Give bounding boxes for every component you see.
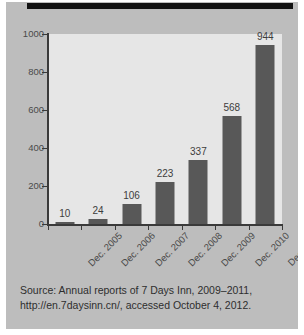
x-axis-category-label: Dec. 2007 bbox=[152, 230, 190, 268]
top-rule-divider bbox=[27, 3, 293, 9]
bar-slot: 568 bbox=[215, 34, 248, 224]
bar-slot: 10 bbox=[48, 34, 81, 224]
bar-value-label: 223 bbox=[157, 169, 174, 179]
y-axis-tick-labels: 02004006008001000 bbox=[6, 22, 44, 236]
bar-slot: 223 bbox=[148, 34, 181, 224]
bar-series: 1024106223337568944 bbox=[48, 34, 282, 224]
source-note: Source: Annual reports of 7 Days Inn, 20… bbox=[20, 283, 290, 313]
bar[interactable] bbox=[256, 45, 275, 224]
bar-slot: 24 bbox=[81, 34, 114, 224]
bar-value-label: 10 bbox=[59, 209, 70, 219]
x-axis-category-label: Dec. 2008 bbox=[186, 230, 224, 268]
source-line-1: Source: Annual reports of 7 Days Inn, 20… bbox=[20, 283, 290, 298]
figure-container: 02004006008001000 1024106223337568944 De… bbox=[0, 0, 304, 335]
source-line-2: http://en.7daysinn.cn/, accessed October… bbox=[20, 298, 290, 313]
bar-value-label: 24 bbox=[93, 206, 104, 216]
y-axis-tick-mark bbox=[42, 72, 47, 73]
bar[interactable] bbox=[89, 219, 108, 224]
x-axis-category-labels: Dec. 2005Dec. 2006Dec. 2007Dec. 2008Dec.… bbox=[48, 230, 288, 274]
bar-slot: 944 bbox=[249, 34, 282, 224]
bar[interactable] bbox=[122, 204, 141, 224]
bar-value-label: 106 bbox=[123, 191, 140, 201]
bar-slot: 337 bbox=[182, 34, 215, 224]
y-axis-tick-mark bbox=[42, 224, 47, 225]
y-axis-tick-label: 0 bbox=[10, 219, 44, 229]
x-axis-category-label: Dec. 2006 bbox=[119, 230, 157, 268]
y-axis-tick-mark bbox=[42, 148, 47, 149]
bar-value-label: 337 bbox=[190, 147, 207, 157]
y-axis-tick-mark bbox=[42, 34, 47, 35]
x-axis-category-label: Dec. 2010 bbox=[253, 230, 291, 268]
bar[interactable] bbox=[155, 182, 174, 224]
x-axis-category-label: Dec. 2009 bbox=[219, 230, 257, 268]
y-axis-tick-mark bbox=[42, 186, 47, 187]
y-axis-tick-label: 600 bbox=[10, 105, 44, 115]
y-axis-tick-label: 800 bbox=[10, 67, 44, 77]
x-axis-category-label: Dec. 2005 bbox=[85, 230, 123, 268]
bar-value-label: 944 bbox=[257, 32, 274, 42]
bar[interactable] bbox=[55, 222, 74, 224]
bar-chart: 02004006008001000 1024106223337568944 De… bbox=[6, 22, 298, 272]
bar[interactable] bbox=[222, 116, 241, 224]
figure-panel: 02004006008001000 1024106223337568944 De… bbox=[6, 2, 298, 329]
y-axis-tick-label: 400 bbox=[10, 143, 44, 153]
x-axis-line bbox=[47, 224, 283, 226]
bar-slot: 106 bbox=[115, 34, 148, 224]
bar-value-label: 568 bbox=[224, 103, 241, 113]
y-axis-tick-mark bbox=[42, 110, 47, 111]
bar[interactable] bbox=[189, 160, 208, 224]
y-axis-tick-label: 200 bbox=[10, 181, 44, 191]
y-axis-tick-label: 1000 bbox=[10, 29, 44, 39]
